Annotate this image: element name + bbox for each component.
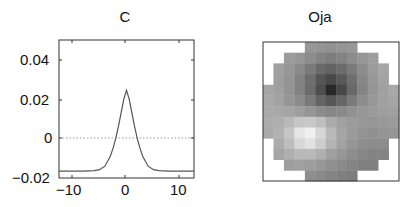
heatmap-cell <box>378 138 389 149</box>
heatmap-cell <box>305 149 316 160</box>
heatmap-cell <box>294 74 305 85</box>
heatmap-cell <box>294 149 305 160</box>
heatmap-cell <box>284 138 295 149</box>
heatmap-cell <box>357 63 368 74</box>
heatmap-cell <box>336 128 347 139</box>
heatmap-cell <box>378 106 389 117</box>
heatmap-cell <box>347 149 358 160</box>
heatmap-cell <box>357 138 368 149</box>
heatmap-cell <box>368 128 379 139</box>
heatmap-cell <box>305 95 316 106</box>
heatmap-cell <box>347 95 358 106</box>
heatmap-cell <box>284 117 295 128</box>
heatmap-cell <box>357 85 368 96</box>
heatmap-cell <box>357 128 368 139</box>
xtick-0: 0 <box>121 181 129 198</box>
heatmap-cell <box>284 106 295 117</box>
heatmap-cell <box>357 149 368 160</box>
xtick-10: 10 <box>170 181 187 198</box>
heatmap-cell <box>305 85 316 96</box>
heatmap-cell <box>368 95 379 106</box>
heatmap-cell <box>336 149 347 160</box>
heatmap-cell <box>378 128 389 139</box>
heatmap-cell <box>305 63 316 74</box>
heatmap-cell <box>305 117 316 128</box>
heatmap-cell <box>315 95 326 106</box>
heatmap-cell <box>378 117 389 128</box>
heatmap-cell <box>315 160 326 171</box>
heatmap-cell <box>378 95 389 106</box>
heatmap-cell <box>357 74 368 85</box>
heatmap-cell <box>284 63 295 74</box>
heatmap-cell <box>273 63 284 74</box>
heatmap-cell <box>305 170 316 181</box>
heatmap-cell <box>315 117 326 128</box>
heatmap-cell <box>347 170 358 181</box>
heatmap-cell <box>368 74 379 85</box>
heatmap-cell <box>294 138 305 149</box>
heatmap-cell <box>368 63 379 74</box>
heatmap-cell <box>263 117 274 128</box>
heatmap-cell <box>315 149 326 160</box>
heatmap-cell <box>273 106 284 117</box>
heatmap-cell <box>273 128 284 139</box>
plot-c: C 0.04 0.02 0 −0.02 −10 0 10 <box>0 0 210 207</box>
heatmap-cell <box>357 106 368 117</box>
heatmap-cell <box>336 160 347 171</box>
heatmap-cell <box>315 53 326 64</box>
heatmap-cell <box>305 106 316 117</box>
heatmap-cell <box>336 170 347 181</box>
heatmap-cell <box>326 170 337 181</box>
heatmap-cell <box>326 74 337 85</box>
heatmap-cell <box>347 138 358 149</box>
heatmap-cell <box>305 42 316 53</box>
heatmap-cell <box>336 53 347 64</box>
heatmap-cell <box>357 160 368 171</box>
heatmap-cell <box>336 63 347 74</box>
heatmap-cell <box>294 117 305 128</box>
heatmap-cell <box>305 128 316 139</box>
heatmap-cell <box>273 74 284 85</box>
heatmap-cell <box>347 117 358 128</box>
heatmap-cell <box>326 106 337 117</box>
heatmap-cell <box>273 117 284 128</box>
heatmap-cell <box>389 85 400 96</box>
oja-heatmap <box>210 0 417 207</box>
heatmap-cell <box>336 85 347 96</box>
heatmap-cell <box>389 95 400 106</box>
heatmap-cell <box>368 160 379 171</box>
heatmap-cell <box>347 85 358 96</box>
heatmap-cell <box>378 63 389 74</box>
heatmap-cell <box>347 53 358 64</box>
ytick-0.02: 0.02 <box>20 91 49 108</box>
heatmap-cell <box>357 117 368 128</box>
heatmap-cell <box>336 138 347 149</box>
heatmap-cell <box>284 53 295 64</box>
heatmap-cell <box>368 138 379 149</box>
heatmap-cell <box>284 95 295 106</box>
heatmap-cell <box>294 128 305 139</box>
heatmap-cell <box>305 74 316 85</box>
xtick-neg10: −10 <box>56 181 81 198</box>
heatmap-cell <box>347 74 358 85</box>
heatmap-cell <box>368 53 379 64</box>
heatmap-cell <box>315 106 326 117</box>
heatmap-cell <box>326 128 337 139</box>
heatmap-cell <box>284 74 295 85</box>
heatmap-cell <box>368 106 379 117</box>
heatmap-cell <box>294 85 305 96</box>
heatmap-cell <box>378 85 389 96</box>
heatmap-cell <box>315 85 326 96</box>
heatmap-cell <box>368 149 379 160</box>
heatmap-cell <box>294 63 305 74</box>
heatmap-cell <box>326 63 337 74</box>
heatmap-cell <box>389 117 400 128</box>
heatmap-cell <box>263 106 274 117</box>
heatmap-cell <box>336 95 347 106</box>
heatmap-cell <box>326 117 337 128</box>
heatmap-cell <box>357 95 368 106</box>
heatmap-cell <box>326 138 337 149</box>
heatmap-cell <box>347 42 358 53</box>
heatmap-cell <box>326 85 337 96</box>
ytick-0.04: 0.04 <box>20 51 49 68</box>
